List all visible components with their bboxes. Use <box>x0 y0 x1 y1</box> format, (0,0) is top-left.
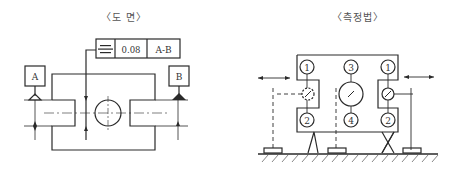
label-2-right: 2 <box>385 116 391 126</box>
measurement-panel: 〈측정법〉 <box>228 0 456 176</box>
datum-a-label: A <box>31 72 39 82</box>
drawing-diagram: 0.08 A-B A B <box>0 0 228 176</box>
label-1-right: 1 <box>385 63 391 73</box>
label-3: 3 <box>348 63 354 73</box>
datum-b-label: B <box>176 72 183 82</box>
label-2-left: 2 <box>304 116 310 126</box>
measurement-diagram: 1 3 1 2 4 2 <box>228 0 456 176</box>
drawing-panel: 〈도 면〉 <box>0 0 228 176</box>
label-4: 4 <box>348 116 354 126</box>
datum-reference: A-B <box>154 45 172 55</box>
label-1-left: 1 <box>304 63 310 73</box>
tolerance-value: 0.08 <box>122 45 141 55</box>
